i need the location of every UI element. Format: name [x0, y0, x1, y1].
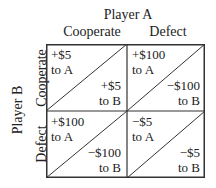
- payoff-to-a: +$100 to A: [51, 114, 84, 144]
- column-label-defect: Defect: [128, 24, 208, 40]
- column-label-cooperate: Cooperate: [52, 24, 132, 40]
- payoff-a-label: to A: [51, 129, 84, 144]
- payoff-b-amount: −$5: [178, 145, 200, 160]
- payoff-a-label: to A: [132, 129, 154, 144]
- payoff-to-b: +$5 to B: [99, 78, 121, 108]
- payoff-a-amount: +$100: [132, 47, 165, 62]
- payoff-to-b: −$100 to B: [88, 145, 121, 175]
- payoff-to-b: −$5 to B: [178, 145, 200, 175]
- payoff-b-amount: +$5: [99, 78, 121, 93]
- payoff-to-a: +$5 to A: [51, 47, 73, 77]
- column-player-label: Player A: [96, 7, 160, 23]
- payoff-a-amount: −$5: [132, 114, 154, 129]
- payoff-b-label: to B: [88, 160, 121, 175]
- payoff-b-label: to B: [178, 160, 200, 175]
- payoff-a-amount: +$5: [51, 47, 73, 62]
- payoff-b-label: to B: [167, 93, 200, 108]
- cell-cooperate-defect: +$100 to A −$100 to B: [127, 44, 205, 111]
- payoff-b-amount: −$100: [167, 78, 200, 93]
- payoff-to-a: +$100 to A: [132, 47, 165, 77]
- row-player-label: Player B: [10, 78, 26, 142]
- payoff-matrix: +$5 to A +$5 to B +$100 to A −$100 to B …: [46, 44, 205, 178]
- payoff-b-amount: −$100: [88, 145, 121, 160]
- payoff-a-label: to A: [51, 62, 73, 77]
- payoff-a-label: to A: [132, 62, 165, 77]
- cell-cooperate-cooperate: +$5 to A +$5 to B: [46, 44, 126, 111]
- payoff-to-b: −$100 to B: [167, 78, 200, 108]
- payoff-a-amount: +$100: [51, 114, 84, 129]
- cell-defect-defect: −$5 to A −$5 to B: [127, 111, 205, 178]
- cell-defect-cooperate: +$100 to A −$100 to B: [46, 111, 126, 178]
- payoff-to-a: −$5 to A: [132, 114, 154, 144]
- payoff-b-label: to B: [99, 93, 121, 108]
